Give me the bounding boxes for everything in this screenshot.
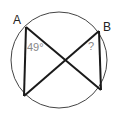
- chord-a-d: [26, 27, 101, 90]
- chord-a-c: [24, 27, 26, 96]
- angle-label-a: 49°: [27, 41, 44, 53]
- inscribed-angle-diagram: A B 49° ?: [0, 0, 119, 114]
- angle-label-b-unknown: ?: [88, 40, 94, 52]
- point-label-b: B: [103, 20, 111, 34]
- point-label-a: A: [13, 13, 21, 27]
- chord-b-d: [99, 31, 101, 90]
